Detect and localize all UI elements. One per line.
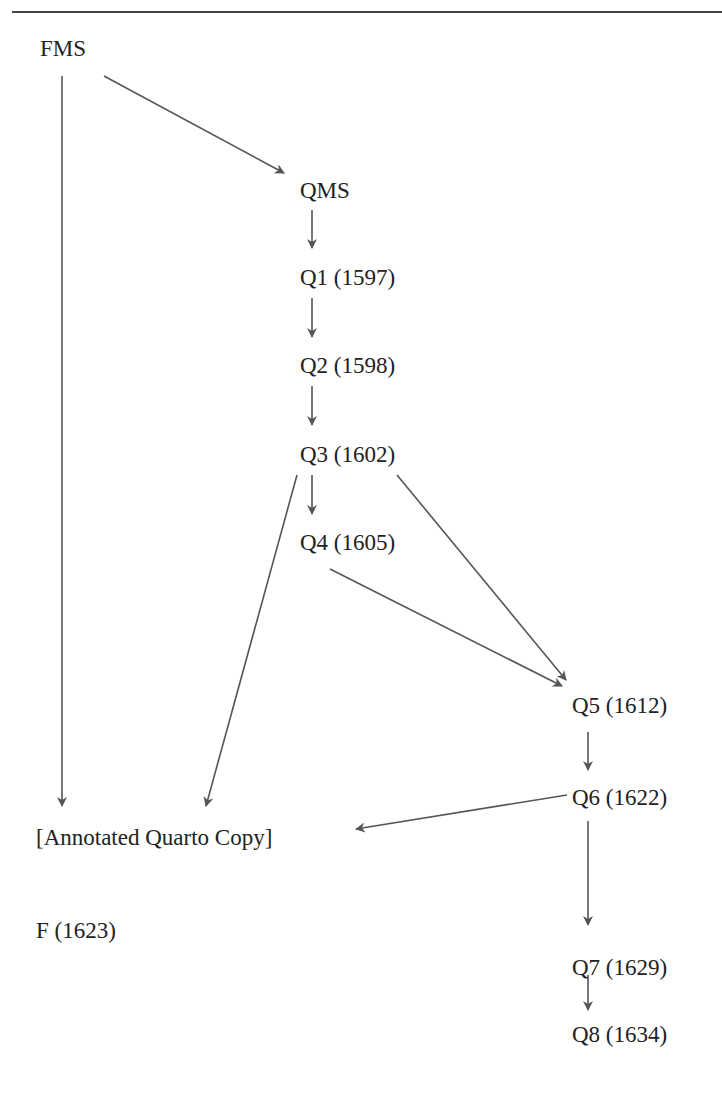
node-q6: Q6 (1622) <box>572 785 667 811</box>
edge-q4-to-q5 <box>330 569 562 686</box>
edge-fms-to-qms <box>104 76 284 173</box>
node-q4: Q4 (1605) <box>300 530 395 556</box>
node-qms: QMS <box>300 178 350 204</box>
node-q2: Q2 (1598) <box>300 353 395 379</box>
node-q7: Q7 (1629) <box>572 955 667 981</box>
node-annotated-quarto-copy: [Annotated Quarto Copy] <box>36 825 272 851</box>
node-q1: Q1 (1597) <box>300 265 395 291</box>
node-q8: Q8 (1634) <box>572 1022 667 1048</box>
edge-q6-to-aqc <box>356 795 567 829</box>
edge-q3-to-q5 <box>397 475 566 680</box>
node-f: F (1623) <box>36 918 116 944</box>
node-fms: FMS <box>40 36 86 62</box>
node-q5: Q5 (1612) <box>572 693 667 719</box>
edge-q3-to-aqc <box>206 475 297 806</box>
node-q3: Q3 (1602) <box>300 442 395 468</box>
